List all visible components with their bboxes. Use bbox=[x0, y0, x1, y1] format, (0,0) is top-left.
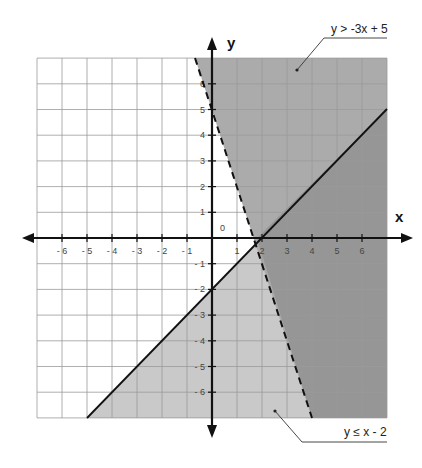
y-tick-label: - 5 bbox=[194, 362, 205, 372]
x-tick-label: - 2 bbox=[157, 246, 168, 256]
y-tick-label: - 4 bbox=[194, 336, 205, 346]
x-tick-label: 3 bbox=[284, 246, 289, 256]
y-tick-label: 3 bbox=[200, 156, 205, 166]
x-tick-label: - 5 bbox=[82, 246, 93, 256]
y-axis-label: y bbox=[227, 34, 236, 51]
annotation-top-text: y > -3x + 5 bbox=[331, 22, 388, 36]
inequality-graph: - 6- 5- 4- 3- 2- 1123456654321- 1- 2- 3-… bbox=[0, 0, 422, 468]
y-tick-label: - 3 bbox=[194, 310, 205, 320]
x-tick-label: 1 bbox=[234, 246, 239, 256]
x-tick-label: - 3 bbox=[132, 246, 143, 256]
x-tick-label: - 6 bbox=[57, 246, 68, 256]
origin-label: 0 bbox=[220, 223, 225, 233]
y-tick-label: - 6 bbox=[194, 387, 205, 397]
x-axis-label: x bbox=[395, 208, 404, 225]
y-tick-label: - 2 bbox=[194, 284, 205, 294]
y-tick-label: 4 bbox=[200, 130, 205, 140]
annotation-bottom-text: y ≤ x - 2 bbox=[344, 425, 387, 439]
x-tick-label: - 4 bbox=[107, 246, 118, 256]
x-tick-label: 2 bbox=[259, 246, 264, 256]
x-tick-label: - 1 bbox=[182, 246, 193, 256]
y-tick-label: 5 bbox=[200, 105, 205, 115]
y-tick-label: 2 bbox=[200, 182, 205, 192]
x-tick-label: 6 bbox=[359, 246, 364, 256]
y-tick-label: 1 bbox=[200, 207, 205, 217]
x-tick-label: 4 bbox=[309, 246, 314, 256]
x-tick-label: 5 bbox=[334, 246, 339, 256]
y-tick-label: - 1 bbox=[194, 259, 205, 269]
